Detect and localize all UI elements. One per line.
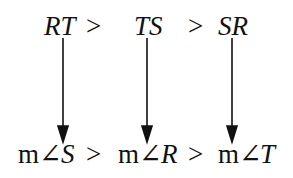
inequality-diagram: RT > TS > SR m∠ S > m∠ R > m∠ T [0,0,293,178]
angle-s: S [61,141,75,168]
angle-t: T [260,141,275,168]
angle-r-prefix: m∠ [118,141,162,168]
angle-s-prefix: m∠ [18,141,62,168]
angle-t-prefix: m∠ [218,141,262,168]
angle-r: R [161,141,178,168]
greater-than-3: > [86,141,101,168]
greater-than-4: > [188,141,203,168]
